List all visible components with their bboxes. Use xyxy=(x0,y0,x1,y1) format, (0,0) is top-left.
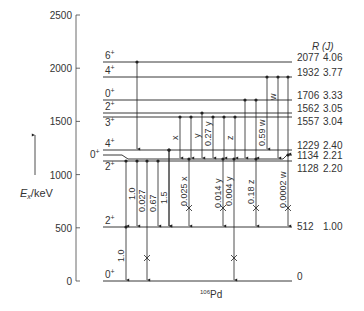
spin-parity-label: 2+ xyxy=(105,214,115,226)
level-ratio: 2.20 xyxy=(323,163,343,174)
y-axis: 05001000150020002500 xyxy=(50,10,80,287)
level-ratio: 4.06 xyxy=(323,52,343,63)
y-tick-label: 500 xyxy=(55,223,72,234)
transition-label: 0.59 w xyxy=(257,119,267,146)
level-energy: 1128 xyxy=(297,163,319,174)
level-energy: 1562 xyxy=(297,103,320,114)
level-energy: 1557 xyxy=(297,116,320,127)
transition-label: x xyxy=(170,135,180,140)
transition: z xyxy=(225,115,237,158)
level-scheme-diagram: 05001000150020002500 Ex/keV R (J) 6+2077… xyxy=(0,0,364,311)
transition: x xyxy=(170,115,182,158)
transition-label: 0.0002 w xyxy=(278,171,288,208)
transition-label: 0.027 xyxy=(137,189,147,212)
ratio-header: R (J) xyxy=(312,41,334,52)
transition: 0.025 x xyxy=(179,157,192,226)
y-tick-label: 2500 xyxy=(50,10,73,21)
transition-label: 1.0 xyxy=(116,249,126,262)
level-energy: 1932 xyxy=(297,67,320,78)
y-tick-label: 0 xyxy=(66,276,72,287)
transition: 0.18 z xyxy=(246,157,259,226)
transition: 1.0 xyxy=(116,225,128,280)
transition-label: 1.0 xyxy=(127,187,137,200)
transition: y xyxy=(192,111,204,158)
y-axis-label: Ex/keV xyxy=(20,135,54,200)
spin-parity-label: 3+ xyxy=(105,116,115,128)
transition-label: 1.5 xyxy=(159,191,169,204)
transition: 0.027 xyxy=(137,159,150,280)
level-0: 0+0 xyxy=(103,268,303,282)
transition: 0.27 y xyxy=(203,115,215,158)
level-energy: 0 xyxy=(297,271,303,282)
svg-text:Ex/keV: Ex/keV xyxy=(20,187,54,200)
spin-parity-label: 4+ xyxy=(105,64,115,76)
level-energy: 2077 xyxy=(297,52,320,63)
level-1562: 2+15623.05 xyxy=(103,100,343,114)
transition: 1.5 xyxy=(159,148,171,226)
spin-parity-label: 0+ xyxy=(105,268,115,280)
transition xyxy=(243,98,246,158)
level-ratio: 2.21 xyxy=(323,150,343,161)
transition-label: 0.004 y xyxy=(224,176,234,206)
spin-parity-label: 0+ xyxy=(90,148,100,160)
nucleus-label: 106Pd xyxy=(200,289,222,300)
level-ratio: 3.77 xyxy=(323,67,343,78)
energy-levels: 6+20774.064+19323.770+17063.332+15623.05… xyxy=(90,49,343,282)
transition-label: 0.67 xyxy=(148,194,158,212)
transition-label: 0.014 y xyxy=(213,178,223,208)
level-energy: 1134 xyxy=(297,150,319,161)
level-ratio: 3.33 xyxy=(323,90,343,101)
level-energy: 512 xyxy=(297,221,314,232)
transition-label: 0.27 y xyxy=(203,121,213,146)
level-energy: 1706 xyxy=(297,90,320,101)
level-1229: 4+12292.40 xyxy=(103,137,343,151)
transition-label: 0.025 x xyxy=(179,176,189,206)
level-ratio: 3.04 xyxy=(323,116,343,127)
transition-label: y xyxy=(192,133,202,138)
transition-label: w xyxy=(268,93,278,101)
y-tick-label: 2000 xyxy=(50,63,73,74)
transition: 0.59 w xyxy=(257,75,269,149)
level-1706: 0+17063.33 xyxy=(103,87,343,101)
level-1932: 4+19323.77 xyxy=(103,64,343,78)
spin-parity-label: 2+ xyxy=(105,160,115,172)
level-2077: 6+20774.06 xyxy=(103,49,343,63)
gamma-transitions: xy0.27 yz0.59 ww1.00.0270.671.50.025 x0.… xyxy=(116,60,291,280)
level-ratio: 3.05 xyxy=(323,103,343,114)
transition xyxy=(135,60,138,149)
spin-parity-label: 6+ xyxy=(105,49,115,61)
transition: 0.67 xyxy=(148,159,160,226)
y-tick-label: 1000 xyxy=(50,170,73,181)
transition-label: 0.18 z xyxy=(246,179,256,204)
level-ratio: 1.00 xyxy=(323,221,343,232)
transition-label: z xyxy=(225,135,235,140)
transition xyxy=(286,75,289,154)
transition: 0.0002 w xyxy=(278,153,291,226)
y-tick-label: 1500 xyxy=(50,116,73,127)
spin-parity-label: 0+ xyxy=(105,87,115,99)
spin-parity-label: 2+ xyxy=(105,100,115,112)
transition: 0.004 y xyxy=(224,157,237,280)
spin-parity-label: 4+ xyxy=(105,137,115,149)
